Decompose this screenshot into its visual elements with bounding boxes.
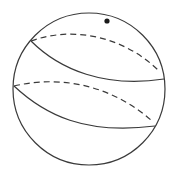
point-marker (104, 18, 109, 23)
sphere-outline (13, 13, 165, 165)
lower-band-back-curve (14, 82, 152, 121)
diagram-svg (0, 0, 173, 176)
sphere-diagram (0, 0, 173, 176)
upper-band-back-curve (31, 34, 158, 70)
upper-band-front-curve (31, 41, 164, 81)
